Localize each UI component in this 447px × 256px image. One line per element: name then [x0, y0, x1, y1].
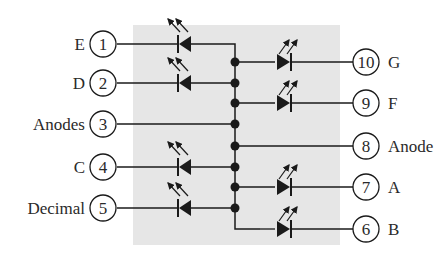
pin-label-g: G: [388, 53, 400, 72]
pin-label-decimal: Decimal: [27, 199, 85, 218]
pin-number: 10: [358, 53, 375, 72]
pin-label-d: D: [73, 74, 85, 93]
pin-label-c: C: [74, 158, 85, 177]
pin-number: 2: [99, 74, 108, 93]
pin-label-anodes: Anodes: [33, 115, 85, 134]
pin-label-e: E: [75, 35, 85, 54]
pin-label-f: F: [388, 94, 397, 113]
pin-number: 9: [362, 94, 371, 113]
pin-label-a: A: [388, 178, 401, 197]
pin-number: 3: [99, 115, 108, 134]
right-pins: 10 G 9 F 8 Anode 7 A 6 B: [353, 49, 433, 242]
pin-number: 8: [362, 137, 371, 156]
pin-number: 7: [362, 178, 371, 197]
pin-number: 1: [99, 35, 108, 54]
led-display-diagram: E 1 D 2 Anodes 3 C 4 Decimal 5: [0, 0, 447, 256]
pin-number: 5: [99, 199, 108, 218]
pin-label-anode: Anode: [388, 137, 433, 156]
pin-label-b: B: [388, 220, 399, 239]
pin-number: 6: [362, 220, 371, 239]
pin-number: 4: [99, 158, 108, 177]
